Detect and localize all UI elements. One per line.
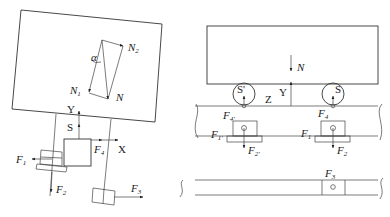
- svg-text:S': S': [237, 83, 245, 95]
- label-N-right: N: [296, 61, 305, 73]
- label-X-left: X: [118, 143, 126, 155]
- label-Y-right: Y: [279, 86, 287, 98]
- label-F1-prime: F1': [210, 128, 223, 142]
- label-Y-left: Y: [67, 103, 75, 115]
- label-S-left: S: [67, 121, 73, 133]
- tilted-body: [12, 10, 162, 122]
- block: [64, 139, 91, 166]
- label-F2-prime: F2': [247, 144, 260, 158]
- label-F2-left: F2: [55, 183, 67, 197]
- label-F2-right: F2: [336, 144, 348, 158]
- right-panel: N Y Z S' S F4' F4 F1' F2' F1: [180, 26, 383, 199]
- label-F3-left: F3: [130, 182, 142, 196]
- label-F3-right: F3: [324, 167, 336, 181]
- label-F1-right: F1: [300, 127, 311, 141]
- svg-text:S: S: [335, 83, 341, 95]
- left-panel: N2 α N1 N Y S F4 X F1 F2 F3: [12, 10, 162, 205]
- label-N2: N2: [127, 41, 139, 55]
- carriage-body: [207, 26, 378, 84]
- mechanics-diagram: N2 α N1 N Y S F4 X F1 F2 F3: [0, 0, 390, 217]
- label-N: N: [115, 91, 124, 103]
- label-F4-right: F4: [317, 107, 329, 121]
- label-F4-left: F4: [93, 143, 105, 157]
- label-F1-left: F1: [15, 153, 26, 167]
- label-Z: Z: [265, 93, 272, 105]
- label-N1: N1: [69, 84, 81, 98]
- label-alpha: α: [91, 51, 97, 63]
